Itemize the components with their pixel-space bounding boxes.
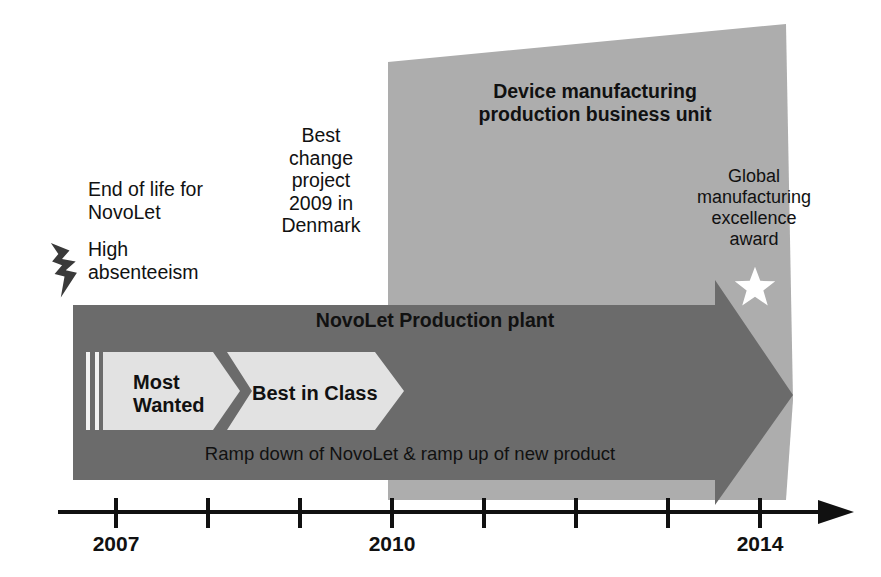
band-label-device-unit: Device manufacturing production business… (420, 80, 770, 125)
chevron-label-best-in-class: Best in Class (252, 382, 412, 405)
axis-label-2007: 2007 (71, 532, 161, 556)
lightning-bolt-icon (47, 238, 87, 300)
star-icon (733, 265, 777, 309)
axis-label-2010: 2010 (347, 532, 437, 556)
annotation-high-absenteeism: High absenteeism (88, 238, 298, 283)
band-label-novolet-plant: NovoLet Production plant (260, 309, 610, 332)
band-sublabel-ramp: Ramp down of NovoLet & ramp up of new pr… (150, 443, 670, 465)
annotation-global-award: Global manufacturing excellence award (670, 166, 838, 250)
timeline-diagram: End of life for NovoLet High absenteeism… (0, 0, 881, 577)
axis-label-2014: 2014 (715, 532, 805, 556)
annotation-best-change-project: Best change project 2009 in Denmark (246, 124, 396, 237)
chevron-label-most-wanted: Most Wanted (133, 371, 243, 417)
